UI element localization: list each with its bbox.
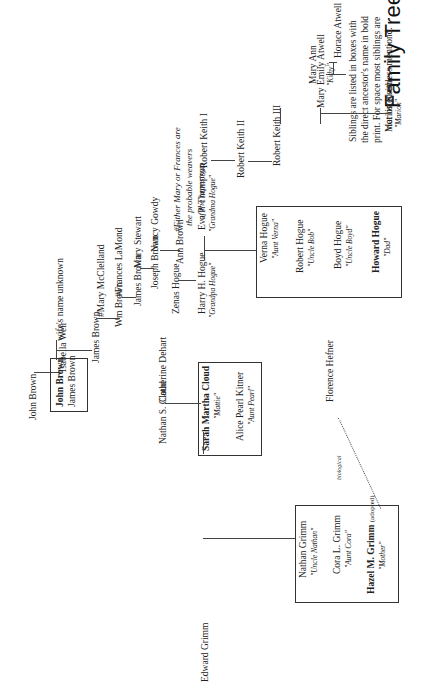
person-boyd-hogue: Boyd Hogue [333,221,343,269]
nickname-grandma-hogue: "Grandma Hogue" [208,175,218,232]
nickname-uncle-nathan: "Uncle Nathan" [310,528,320,576]
person-frances-lamond: #Frances LaMond [114,228,124,297]
connector [320,108,321,124]
person-wife-unknown: wife's name unknown [55,258,65,341]
person-robert-keith-1: Robert Keith I [199,113,209,168]
hazel-name: Hazel M. Grimm [366,525,376,594]
family-tree-diagram: Family Tree Siblings are listed in boxes… [0,0,426,688]
person-catherine-dehart: Catherine Dehart [158,337,168,402]
person-florence-hefner: Florence Hefner [325,340,335,402]
connector [178,280,196,281]
intro-line-1: Siblings are listed in boxes with [348,20,360,142]
connector [165,403,201,404]
person-john-brown: John Brown [55,357,65,407]
person-nancy-gowdy: Nancy Gowdy [150,197,160,252]
connector [203,432,204,454]
person-mary-stewart: Mary Stewart [133,216,143,268]
person-james-brown-1: James Brown [91,312,101,363]
sibling-box-hogue: Verna Hogue "Aunt Verna" Robert Hogue "U… [256,206,402,298]
nickname-dad: "Dad" [383,238,393,257]
nickname-grandpa-hogue: "Grandpa Hogue" [208,263,218,318]
weaver-note-line-2: the probable weavers [184,149,195,226]
nickname-mattie: "Mattie" [213,393,223,419]
person-hazel-grimm: Hazel M. Grimm (adopted) [366,495,377,594]
intro-line-3: print. For space most siblings are [372,17,384,143]
person-howard-hogue: Howard Hogue [371,211,381,273]
nickname-aunt-verna: "Aunt Verna" [271,219,281,259]
nickname-mother: "Mother" [378,542,388,570]
nickname-uncle-boyd: "Uncle Boyd" [345,226,355,268]
person-nathan-grimm: Nathan Grimm [298,521,308,578]
nickname-marion: "Marion" [394,99,404,128]
person-horace-atwell: Horace Atwell [333,3,343,58]
connector [204,236,205,260]
connector [204,250,256,251]
label-biological: biological [334,456,344,480]
person-harry-hogue: Harry H. Hogue [197,253,207,314]
nickname-kithy: "Kithy" [326,63,336,86]
nickname-aunt-cora: "Aunt Cora" [344,530,354,568]
person-cora-grimm: Cora L. Grimm [332,515,342,574]
nickname-aunt-pearl: "Aunt Pearl" [247,386,257,425]
person-ann-brown: Ann Brown [175,219,185,264]
connector [280,108,281,124]
adopted-label: (adopted) [368,495,376,522]
person-robert-keith-2: Robert Keith II [236,120,246,178]
person-robert-hogue: Robert Hogue [295,219,305,273]
person-eva-thompson: Eva P. Thompson [197,163,207,230]
person-john-brown-sr: John Brown [28,374,38,420]
person-mary-emily-atwell: Mary Emily Atwell [316,34,326,108]
sibling-box-brown: John Brown James Brown [50,358,88,412]
person-james-brown-sibling: James Brown [67,356,77,407]
person-alice-pearl-kitner: Alice Pearl Kitner [235,372,245,441]
person-edward-grimm: Edward Grimm [200,623,210,682]
weaver-note-line-1: #Either Mary or Frances are [172,127,183,232]
connector [320,113,388,114]
person-marion-keith: Marion Keith [384,81,394,132]
person-mary-mcclelland: #Mary McClelland [96,244,106,317]
nickname-uncle-bob: "Uncle Bob" [307,229,317,267]
sibling-box-cloud: Sarah Martha Cloud "Mattie" Alice Pearl … [198,362,262,456]
sibling-box-grimm: Nathan Grimm "Uncle Nathan" Cora L. Grim… [295,505,399,603]
connector [211,160,235,161]
connector [203,538,295,539]
connector [248,161,272,162]
intro-line-2: the direct ancestor's name in bold [360,16,372,143]
person-zenas-hogue: Zenas Hogue [171,264,181,314]
connector [56,350,92,351]
person-verna-hogue: Verna Hogue [259,213,269,263]
